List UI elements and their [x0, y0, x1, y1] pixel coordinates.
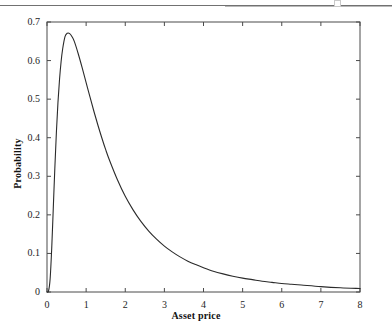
x-tick-label: 4 — [201, 300, 206, 310]
x-tick-label: 5 — [240, 300, 245, 310]
y-tick-label: 0 — [0, 287, 40, 297]
x-tick-label: 8 — [358, 300, 363, 310]
x-tick-label: 1 — [84, 300, 89, 310]
x-tick-label: 2 — [123, 300, 128, 310]
x-tick-label: 6 — [279, 300, 284, 310]
y-axis-title: Probability — [12, 109, 23, 219]
axis-frame — [47, 22, 360, 292]
y-tick-label: 0.1 — [0, 248, 40, 258]
x-tick-label: 7 — [318, 300, 323, 310]
y-tick-label: 0.5 — [0, 94, 40, 104]
axis-ticks — [47, 22, 360, 292]
y-tick-label: 0.6 — [0, 56, 40, 66]
x-axis-title: Asset price — [0, 310, 392, 321]
probability-distribution-figure: 00.10.20.30.40.50.60.7 012345678 Asset p… — [0, 0, 392, 328]
probability-density-curve — [47, 33, 360, 292]
x-tick-label: 3 — [162, 300, 167, 310]
x-tick-label: 0 — [45, 300, 50, 310]
probability-curve-plot — [0, 0, 392, 328]
y-tick-label: 0.7 — [0, 17, 40, 27]
